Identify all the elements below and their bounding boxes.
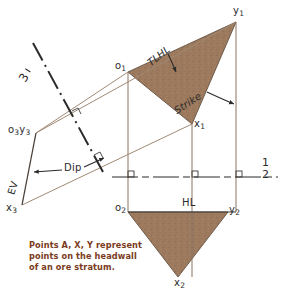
label-fold-line-1-2: 1 2 [262,157,269,180]
label-x3: x3 [6,203,17,213]
fold-line-1-2-group [112,171,278,177]
label-hl: HL [182,198,196,208]
strike-arrow [207,92,234,104]
label-x2: x2 [174,278,185,288]
figure-caption: Points A, X, Y represent points on the h… [29,240,142,273]
dip-arrow-right [84,158,104,167]
front-view-stratum-triangle [128,212,228,277]
edge-view-line [22,133,36,205]
label-dip: Dip [64,163,81,173]
aux-ray-o1 [36,72,128,133]
front-view-triangle-group [128,212,228,277]
fold-line-1-3-group [33,43,103,172]
dip-arrow-left [34,170,62,172]
label-o2: o2 [115,203,126,213]
label-y1: y1 [233,6,244,16]
label-x1: x1 [194,119,205,129]
diagram-canvas: y1 o1 x1 o3y3 x3 o2 y2 x2 HL TLHL Strike… [0,0,295,297]
fold-1-2-denominator: 2 [262,169,269,181]
fold-line-tick [25,68,31,72]
aux-ray-x [22,124,192,205]
fold-1-2-numerator: 1 [262,157,269,169]
label-y2: y2 [229,205,240,215]
right-angle-mark-o-fold [128,171,134,177]
label-o3y3: o3y3 [8,125,30,135]
right-angle-mark-x-fold [192,171,198,177]
fold-line-1-3 [33,43,103,172]
right-angle-mark-y-fold [236,171,242,177]
label-o1: o1 [115,61,126,71]
